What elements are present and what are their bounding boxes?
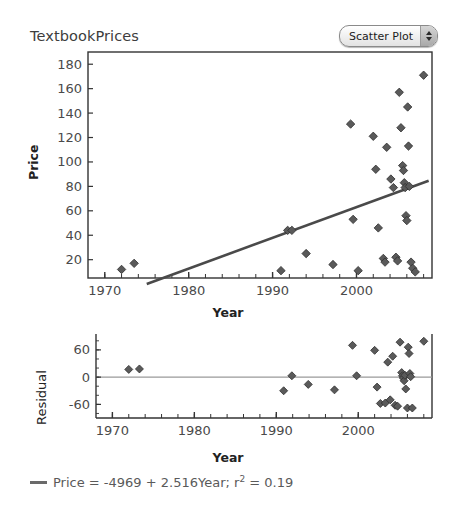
svg-text:180: 180 <box>57 57 82 72</box>
svg-text:1970: 1970 <box>88 283 121 298</box>
residual-plot-canvas[interactable]: -600601970198019902000 <box>0 330 456 460</box>
svg-text:1990: 1990 <box>256 283 289 298</box>
y-axis-title-residual: Residual <box>34 370 49 425</box>
regression-equation-legend: Price = -4969 + 2.516Year; r2 = 0.19 <box>30 474 293 490</box>
svg-text:1970: 1970 <box>96 423 129 438</box>
svg-text:1980: 1980 <box>178 423 211 438</box>
svg-text:2000: 2000 <box>342 423 375 438</box>
svg-text:80: 80 <box>65 179 82 194</box>
svg-text:1990: 1990 <box>260 423 293 438</box>
equation-suffix: = 0.19 <box>245 475 293 490</box>
svg-text:60: 60 <box>73 342 90 357</box>
svg-text:-60: -60 <box>69 397 90 412</box>
equation-prefix: Price = -4969 + 2.516Year; r <box>53 475 239 490</box>
x-axis-title-year-residual: Year <box>0 450 456 465</box>
svg-text:140: 140 <box>57 106 82 121</box>
svg-text:120: 120 <box>57 130 82 145</box>
svg-text:20: 20 <box>65 252 82 267</box>
x-axis-title-year-main: Year <box>0 305 456 320</box>
regression-equation-text: Price = -4969 + 2.516Year; r2 = 0.19 <box>53 474 293 490</box>
y-axis-title-price: Price <box>26 145 41 181</box>
svg-text:60: 60 <box>65 203 82 218</box>
svg-text:40: 40 <box>65 228 82 243</box>
svg-text:1980: 1980 <box>172 283 205 298</box>
svg-text:2000: 2000 <box>340 283 373 298</box>
scatter-plot-canvas[interactable]: 204060801001201401601801970198019902000 <box>0 0 456 300</box>
fit-line-swatch-icon <box>30 481 47 484</box>
svg-text:100: 100 <box>57 154 82 169</box>
svg-text:160: 160 <box>57 81 82 96</box>
svg-text:0: 0 <box>82 370 90 385</box>
